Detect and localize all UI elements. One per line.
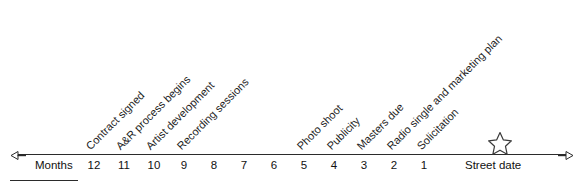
axis-label-row: Months 12 11 10 9 8 7 6 5 4 3 2 1 Street… (0, 158, 584, 174)
axis-tick-11: 11 (113, 158, 135, 173)
axis-tick-3: 3 (353, 158, 375, 173)
milestone-label-layer: Contract signed A&R process begins Artis… (0, 0, 584, 152)
axis-tick-2: 2 (383, 158, 405, 173)
axis-street-date-label: Street date (465, 158, 521, 173)
axis-tick-1: 1 (413, 158, 435, 173)
axis-tick-4: 4 (323, 158, 345, 173)
timeline-axis-line (18, 154, 566, 155)
milestone-label-radio-single-and-marketing-plan: Radio single and marketing plan (385, 32, 505, 152)
axis-tick-5: 5 (293, 158, 315, 173)
axis-tick-7: 7 (233, 158, 255, 173)
footnote-separator (10, 180, 78, 181)
axis-tick-6: 6 (263, 158, 285, 173)
axis-tick-10: 10 (143, 158, 165, 173)
axis-tick-12: 12 (83, 158, 105, 173)
axis-unit-label: Months (35, 158, 73, 173)
axis-tick-8: 8 (203, 158, 225, 173)
axis-tick-9: 9 (173, 158, 195, 173)
timeline-figure: Contract signed A&R process begins Artis… (0, 0, 584, 188)
